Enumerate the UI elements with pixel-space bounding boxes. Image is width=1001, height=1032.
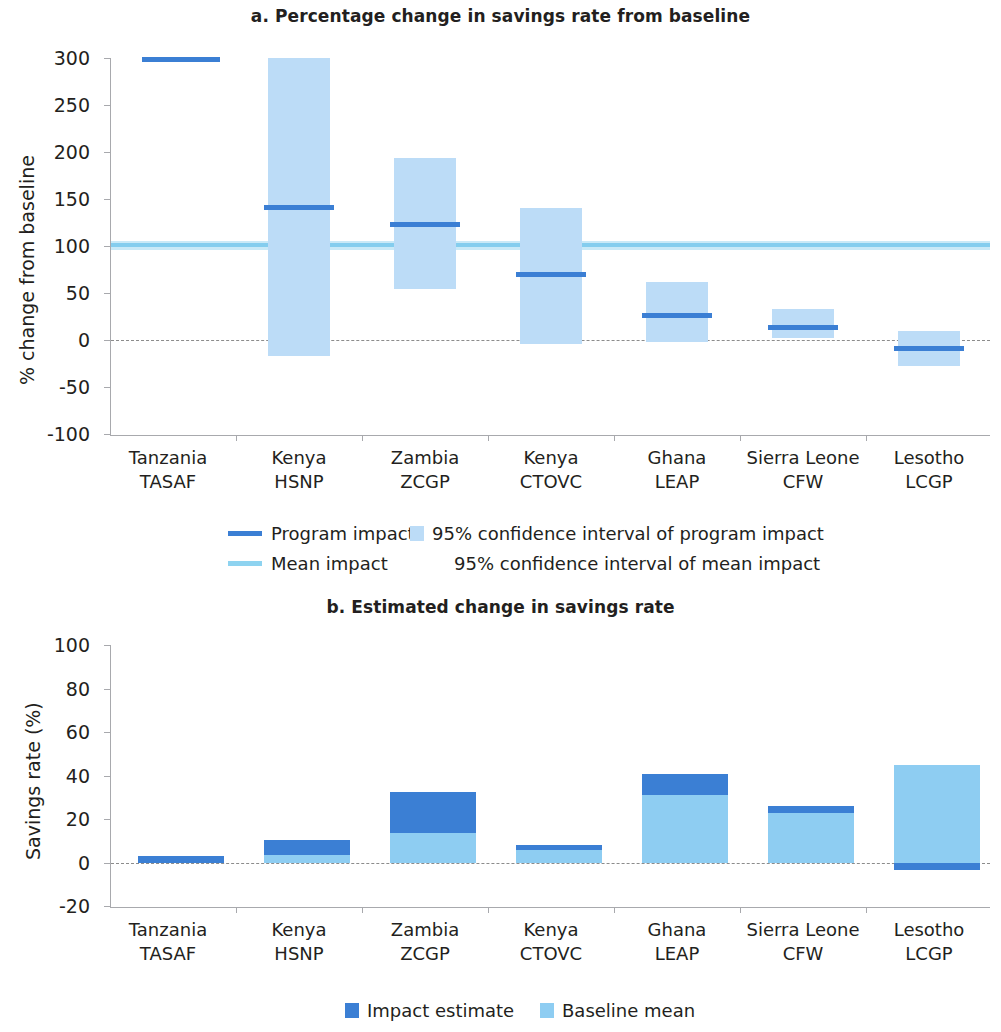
- panel-b-xlabel-lesotho-lcgp-line1: Lesotho: [874, 918, 984, 942]
- panel-b-tick-neg20: [104, 906, 110, 907]
- panel-a-ytick-300: 300: [28, 47, 90, 69]
- panel-b-xlabel-zambia-zcgp: Zambia ZCGP: [370, 918, 480, 966]
- panel-b-xlabel-lesotho-lcgp-line2: LCGP: [874, 942, 984, 966]
- panel-a-tick-150: [104, 199, 110, 200]
- panel-b-xlabel-tanzania-tasaf: Tanzania TASAF: [113, 918, 223, 966]
- panel-a-xlabel-kenya-hsnp: Kenya HSNP: [244, 446, 354, 494]
- panel-b-title: b. Estimated change in savings rate: [0, 597, 1001, 617]
- panel-a-xlabel-zambia-zcgp-line1: Zambia: [370, 446, 480, 470]
- panel-b-ytick-80: 80: [28, 678, 90, 700]
- panel-a-impact-zambia-zcgp: [390, 222, 460, 227]
- legend-item-ci-mean-impact: 95% confidence interval of mean impact: [432, 553, 820, 574]
- panel-b-xtick-5: [740, 907, 741, 913]
- panel-a-tick-100: [104, 246, 110, 247]
- legend-label-ci-mean-impact: 95% confidence interval of mean impact: [454, 553, 820, 574]
- baseline-mean-swatch-icon: [540, 1003, 554, 1018]
- panel-a-impact-sierra-leone-cfw: [768, 325, 838, 330]
- panel-a-ytick-100: 100: [28, 235, 90, 257]
- program-impact-line-swatch-icon: [228, 531, 262, 536]
- panel-b-xtick-4: [614, 907, 615, 913]
- panel-b-ytick-100: 100: [28, 634, 90, 656]
- legend-item-baseline-mean: Baseline mean: [540, 1000, 695, 1021]
- mean-impact-line-swatch-icon: [228, 561, 262, 566]
- panel-a-xlabel-sierra-leone-cfw-line1: Sierra Leone: [742, 446, 864, 470]
- ci-mean-swatch-icon: [432, 556, 446, 571]
- panel-a-ytick-neg50: -50: [28, 376, 90, 398]
- panel-b-xlabel-sierra-leone-cfw-line1: Sierra Leone: [742, 918, 864, 942]
- panel-b-xlabel-kenya-hsnp-line1: Kenya: [244, 918, 354, 942]
- panel-b-xtick-6: [866, 907, 867, 913]
- panel-b-xlabel-zambia-zcgp-line1: Zambia: [370, 918, 480, 942]
- panel-b-x-axis: [110, 907, 990, 908]
- panel-a-tick-neg100: [104, 434, 110, 435]
- panel-b-impact-ghana-leap: [642, 774, 728, 795]
- panel-a-xlabel-kenya-hsnp-line1: Kenya: [244, 446, 354, 470]
- panel-b-xlabel-lesotho-lcgp: Lesotho LCGP: [874, 918, 984, 966]
- panel-a-ytick-150: 150: [28, 188, 90, 210]
- panel-a-xtick-1: [236, 435, 237, 441]
- legend-item-program-impact: Program impact: [228, 523, 415, 544]
- panel-a-tick-neg50: [104, 387, 110, 388]
- panel-a-ytick-200: 200: [28, 141, 90, 163]
- panel-b-tick-20: [104, 819, 110, 820]
- panel-b-zero-line: [111, 863, 990, 864]
- panel-a-xtick-6: [866, 435, 867, 441]
- panel-b-tick-0: [104, 863, 110, 864]
- panel-a-xlabel-sierra-leone-cfw-line2: CFW: [742, 470, 864, 494]
- panel-b-ytick-60: 60: [28, 721, 90, 743]
- panel-a-impact-kenya-ctovc: [516, 272, 586, 277]
- panel-b-impact-lesotho-lcgp: [894, 863, 980, 870]
- impact-estimate-swatch-icon: [345, 1003, 359, 1018]
- panel-b-xlabel-tanzania-tasaf-line1: Tanzania: [113, 918, 223, 942]
- panel-b-xlabel-kenya-ctovc-line2: CTOVC: [496, 942, 606, 966]
- panel-a-xtick-2: [362, 435, 363, 441]
- legend-label-baseline-mean: Baseline mean: [562, 1000, 695, 1021]
- panel-b-tick-80: [104, 689, 110, 690]
- panel-a-xlabel-kenya-ctovc: Kenya CTOVC: [496, 446, 606, 494]
- panel-b-xtick-3: [488, 907, 489, 913]
- panel-a-impact-tanzania-tasaf: [142, 57, 220, 62]
- legend-label-ci-program-impact: 95% confidence interval of program impac…: [432, 523, 824, 544]
- panel-b-xlabel-ghana-leap: Ghana LEAP: [622, 918, 732, 966]
- ci-program-swatch-icon: [410, 526, 424, 541]
- panel-b-xlabel-kenya-hsnp: Kenya HSNP: [244, 918, 354, 966]
- panel-a-impact-ghana-leap: [642, 313, 712, 318]
- panel-a-xlabel-zambia-zcgp: Zambia ZCGP: [370, 446, 480, 494]
- panel-a-xlabel-ghana-leap: Ghana LEAP: [622, 446, 732, 494]
- legend-item-mean-impact: Mean impact: [228, 553, 388, 574]
- panel-a-tick-50: [104, 293, 110, 294]
- panel-b-impact-kenya-ctovc: [516, 845, 602, 850]
- panel-b-xlabel-sierra-leone-cfw-line2: CFW: [742, 942, 864, 966]
- panel-b-baseline-sierra-leone-cfw: [768, 813, 854, 863]
- panel-b-xlabel-kenya-ctovc-line1: Kenya: [496, 918, 606, 942]
- panel-a-xlabel-kenya-ctovc-line2: CTOVC: [496, 470, 606, 494]
- panel-a-xlabel-tanzania-tasaf: Tanzania TASAF: [113, 446, 223, 494]
- panel-a-xtick-3: [488, 435, 489, 441]
- panel-b-baseline-lesotho-lcgp: [894, 765, 980, 863]
- panel-b-baseline-ghana-leap: [642, 795, 728, 863]
- panel-a-ci-ghana-leap: [646, 282, 708, 342]
- panel-b-xlabel-ghana-leap-line2: LEAP: [622, 942, 732, 966]
- panel-a-tick-300: [104, 58, 110, 59]
- panel-b-baseline-kenya-ctovc: [516, 850, 602, 863]
- panel-b-xlabel-sierra-leone-cfw: Sierra Leone CFW: [742, 918, 864, 966]
- panel-b-xlabel-kenya-hsnp-line2: HSNP: [244, 942, 354, 966]
- panel-a-xlabel-lesotho-lcgp-line1: Lesotho: [874, 446, 984, 470]
- panel-b-tick-100: [104, 645, 110, 646]
- panel-a-xtick-5: [740, 435, 741, 441]
- legend-label-impact-estimate: Impact estimate: [367, 1000, 514, 1021]
- panel-b-ytick-neg20: -20: [28, 895, 90, 917]
- panel-b-xlabel-tanzania-tasaf-line2: TASAF: [113, 942, 223, 966]
- panel-a-xlabel-tanzania-tasaf-line2: TASAF: [113, 470, 223, 494]
- panel-b-y-axis: [110, 645, 111, 907]
- panel-a-ci-sierra-leone-cfw: [772, 309, 834, 338]
- panel-b-impact-kenya-hsnp: [264, 840, 350, 855]
- panel-a-xlabel-lesotho-lcgp-line2: LCGP: [874, 470, 984, 494]
- panel-b-xtick-2: [362, 907, 363, 913]
- panel-a-tick-250: [104, 105, 110, 106]
- panel-a-xlabel-ghana-leap-line2: LEAP: [622, 470, 732, 494]
- panel-a-xlabel-kenya-hsnp-line2: HSNP: [244, 470, 354, 494]
- panel-b-impact-zambia-zcgp: [390, 792, 476, 833]
- legend-item-ci-program-impact: 95% confidence interval of program impac…: [410, 523, 824, 544]
- panel-b-ytick-20: 20: [28, 808, 90, 830]
